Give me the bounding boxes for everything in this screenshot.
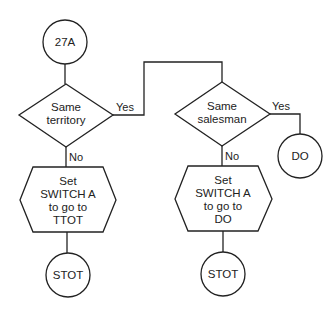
process-set-switch-a-ttot: Set SWITCH A to go to TTOT <box>20 167 116 232</box>
process1-line4: TTOT <box>53 214 83 226</box>
decision-same-territory: Same territory <box>19 84 113 147</box>
process2-line4: DO <box>214 213 231 225</box>
flowchart-canvas: 27A Same territory Yes No Same salesman … <box>0 0 336 317</box>
process2-line3: to go to <box>204 200 242 212</box>
stot-connector-right: STOT <box>201 252 245 296</box>
decision2-yes-label: Yes <box>272 100 290 112</box>
decision2-line1: Same <box>207 100 237 112</box>
decision2-line2: salesman <box>197 113 246 125</box>
decision2-no-label: No <box>225 150 239 162</box>
process1-line2: SWITCH A <box>40 188 96 200</box>
decision1-line1: Same <box>51 101 81 113</box>
stot1-label: STOT <box>53 269 83 281</box>
process2-line2: SWITCH A <box>195 187 251 199</box>
process2-line1: Set <box>214 174 232 186</box>
decision1-line2: territory <box>47 114 86 126</box>
decision1-no-label: No <box>69 151 83 163</box>
start-connector-label: 27A <box>55 36 76 48</box>
edge-decision2-yes-to-do <box>270 114 300 134</box>
process1-line1: Set <box>59 175 77 187</box>
process-set-switch-a-do: Set SWITCH A to go to DO <box>175 166 272 231</box>
stot-connector-left: STOT <box>46 253 90 297</box>
start-connector-27a: 27A <box>43 20 87 64</box>
do-connector: DO <box>278 134 322 178</box>
stot2-label: STOT <box>208 268 238 280</box>
do-connector-label: DO <box>291 150 308 162</box>
decision-same-salesman: Same salesman <box>175 82 270 146</box>
decision1-yes-label: Yes <box>116 101 134 113</box>
process1-line3: to go to <box>49 201 87 213</box>
